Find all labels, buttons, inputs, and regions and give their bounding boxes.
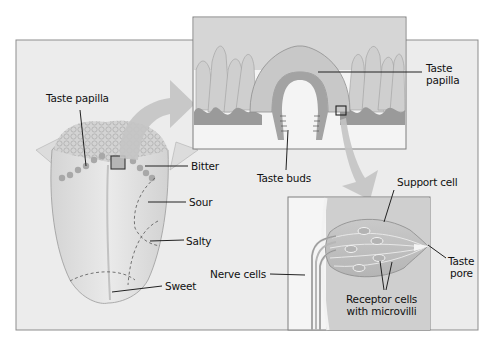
- label-bitter: Bitter: [191, 160, 219, 172]
- label-salty: Salty: [186, 235, 211, 247]
- label-nerve-cells: Nerve cells: [210, 268, 266, 280]
- label-taste-papilla-line1: Taste: [426, 62, 460, 74]
- label-taste-buds: Taste buds: [257, 172, 311, 184]
- label-sweet: Sweet: [165, 280, 196, 292]
- label-taste-pore-line1: Taste: [448, 255, 474, 267]
- label-taste-pore: Taste pore: [448, 255, 474, 279]
- taste-diagram: Taste papilla Bitter Sour Salty Sweet Ta…: [0, 0, 495, 344]
- label-sour: Sour: [189, 196, 212, 208]
- label-taste-papilla-inset: Taste papilla: [426, 62, 460, 86]
- label-taste-pore-line2: pore: [448, 267, 474, 279]
- papilla-inset: [193, 17, 406, 149]
- label-taste-papilla-tongue: Taste papilla: [46, 92, 109, 104]
- label-taste-papilla-line2: papilla: [426, 74, 460, 86]
- label-receptor-cells-line2: with microvilli: [346, 305, 417, 317]
- diagram-illustration: [0, 0, 495, 344]
- label-receptor-cells: Receptor cells with microvilli: [346, 293, 417, 317]
- label-receptor-cells-line1: Receptor cells: [346, 293, 417, 305]
- label-support-cell: Support cell: [397, 176, 458, 188]
